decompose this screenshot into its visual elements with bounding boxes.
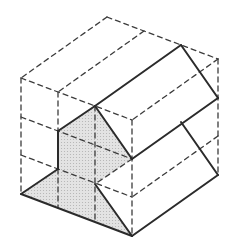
hidden-edge-UL-F (21, 78, 132, 120)
solid-edge-B1-V2 (132, 98, 218, 159)
hidden-edge-T-UL (21, 17, 107, 78)
solid-edge-A-C (95, 45, 181, 106)
isometric-cube-diagram (0, 0, 229, 243)
hidden-edge-A3-V1 (58, 31, 144, 92)
hidden-edge-R3-F3 (132, 136, 218, 197)
solid-edge-FB-LR (132, 175, 218, 236)
solid-edge-A-B1 (181, 45, 218, 98)
hidden-edge-T-UR (107, 17, 218, 59)
figure-canvas (0, 0, 229, 243)
hidden-edge-UR-F (132, 59, 218, 120)
solid-edge-Q-LR (181, 122, 218, 175)
